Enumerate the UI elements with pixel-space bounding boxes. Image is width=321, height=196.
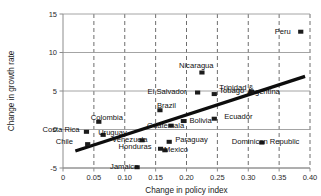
data-point-marker xyxy=(84,130,89,134)
y-tick-label: 10 xyxy=(49,48,57,57)
data-point-label: Dominican Republic xyxy=(232,137,300,146)
data-point-label: Argentina xyxy=(247,87,280,96)
y-tick-label: 15 xyxy=(49,10,57,19)
x-tick-label: 0.10 xyxy=(117,173,132,182)
data-point-marker xyxy=(195,91,200,95)
data-point-label: Peru xyxy=(275,27,291,36)
y-tick-label: -5 xyxy=(50,164,57,173)
x-tick-label: 0.25 xyxy=(210,173,225,182)
data-point-marker xyxy=(167,140,172,144)
data-point-label: El Salvador xyxy=(148,87,187,96)
x-tick-label: 0.15 xyxy=(148,173,163,182)
x-tick-label: 0.40 xyxy=(303,173,318,182)
data-point-marker xyxy=(199,71,204,75)
scatter-chart: 00.050.100.150.200.250.300.350.40-505101… xyxy=(0,0,321,196)
data-point-label: Mexico xyxy=(164,145,188,154)
x-tick-label: 0.20 xyxy=(179,173,194,182)
data-point-label: Chile xyxy=(56,137,73,146)
x-tick-label: 0 xyxy=(61,173,65,182)
data-point-marker xyxy=(85,142,90,146)
x-tick-label: 0.05 xyxy=(87,173,102,182)
data-point-label: Colombia xyxy=(91,113,124,122)
y-axis-title: Change in growth rate xyxy=(7,50,16,131)
data-point-label: Bolivia xyxy=(189,116,212,125)
data-point-label: Guatemala xyxy=(147,121,185,130)
x-axis-title: Change in policy index xyxy=(145,186,227,195)
data-point-label: Ecuador xyxy=(224,112,253,121)
data-point-label: Paraguay xyxy=(175,135,208,144)
data-point-marker xyxy=(298,30,303,34)
data-point-marker xyxy=(212,92,217,96)
data-point-label: Brazil xyxy=(157,101,176,110)
chart-canvas: 00.050.100.150.200.250.300.350.40-505101… xyxy=(0,0,321,196)
data-point-label: Costa Rica xyxy=(42,125,80,134)
data-point-label: Honduras xyxy=(119,142,152,151)
y-tick-label: 5 xyxy=(53,87,57,96)
x-tick-label: 0.30 xyxy=(241,173,256,182)
data-point-label: Nicaragua xyxy=(179,61,214,70)
data-point-marker xyxy=(212,117,217,121)
data-point-label: Jamaica xyxy=(110,162,139,171)
x-tick-label: 0.35 xyxy=(272,173,287,182)
data-point-label: Tobago xyxy=(219,86,244,95)
